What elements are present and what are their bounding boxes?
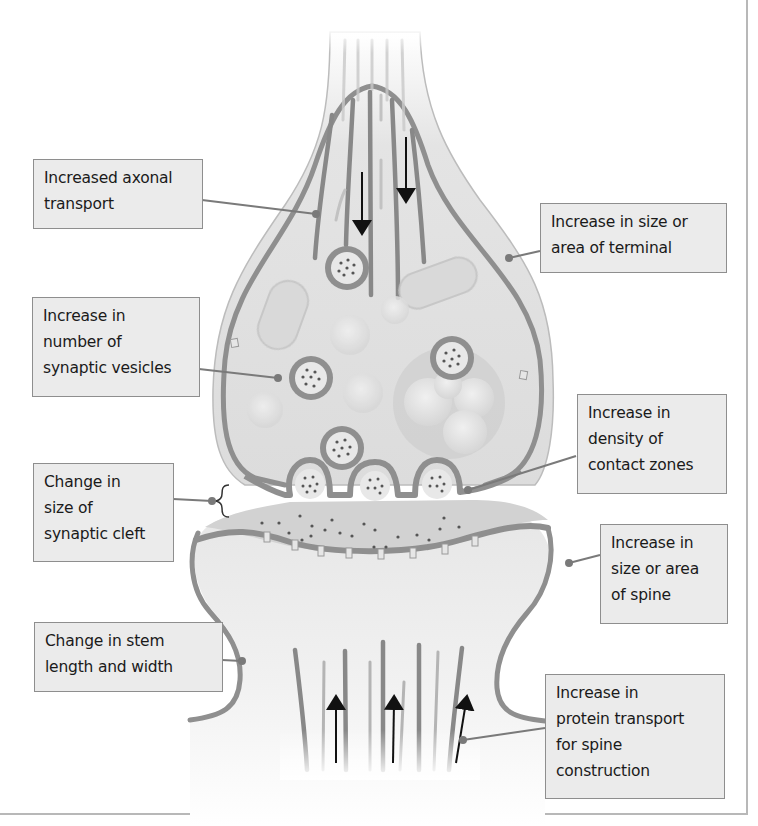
label-synaptic-vesicles: Increase in number of synaptic vesicles	[32, 297, 200, 397]
label-contact-zones: Increase in density of contact zones	[577, 394, 727, 494]
label-stem-length: Change in stem length and width	[34, 622, 223, 692]
label-synaptic-cleft: Change in size of synaptic cleft	[33, 463, 174, 562]
label-axonal-transport: Increased axonal transport	[33, 159, 203, 229]
cleft-brace-icon	[216, 485, 229, 517]
docked-vesicles	[295, 469, 452, 501]
presynaptic-terminal	[213, 28, 553, 501]
label-protein-transport: Increase in protein transport for spine …	[545, 674, 725, 799]
label-spine-size: Increase in size or area of spine	[600, 524, 728, 624]
label-terminal-size: Increase in size or area of terminal	[540, 203, 727, 273]
arrow-up-icon	[393, 702, 394, 763]
